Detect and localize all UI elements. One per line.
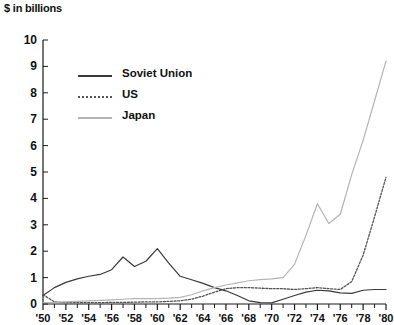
y-axis-tick-label: 7: [11, 113, 37, 125]
y-axis-tick-label: 9: [11, 60, 37, 72]
legend-label: Soviet Union: [122, 67, 192, 79]
y-axis-tick-label: 8: [11, 87, 37, 99]
legend-label: US: [122, 88, 138, 100]
plot-area: [0, 0, 394, 325]
y-axis-tick-label: 4: [11, 192, 37, 204]
line-chart: $ in billions 012345678910 '50'52'54'56'…: [0, 0, 394, 325]
y-axis-tick-label: 3: [11, 219, 37, 231]
x-axis-tick-label: '80: [373, 313, 394, 324]
legend-line-swatch: [78, 75, 112, 77]
series-line-soviet-union: [43, 249, 386, 303]
y-axis-tick-label: 10: [11, 34, 37, 46]
legend-label: Japan: [122, 109, 155, 121]
axes: [43, 40, 386, 304]
axis-ticks: [43, 40, 386, 310]
series-line-us: [43, 177, 386, 302]
legend-line-swatch: [78, 96, 112, 98]
y-axis-tick-label: 0: [11, 298, 37, 310]
y-axis-tick-label: 2: [11, 245, 37, 257]
legend-line-swatch: [78, 117, 112, 119]
y-axis-tick-label: 5: [11, 166, 37, 178]
y-axis-tick-label: 6: [11, 140, 37, 152]
y-axis-tick-label: 1: [11, 272, 37, 284]
